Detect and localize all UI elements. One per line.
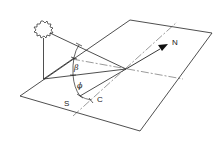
solar-geometry-diagram: N S C β ϕ [0, 0, 222, 143]
sun-icon [34, 21, 53, 38]
ew-axis [72, 59, 183, 79]
north-label: N [172, 38, 178, 47]
north-arrow-icon [158, 44, 168, 51]
phi-label: ϕ [77, 81, 83, 90]
south-line [80, 69, 126, 96]
north-arrow-shaft [126, 49, 160, 69]
c-label: C [97, 95, 103, 104]
south-label: S [64, 99, 69, 108]
beta-label: β [73, 63, 79, 72]
sun-ray [50, 33, 126, 69]
